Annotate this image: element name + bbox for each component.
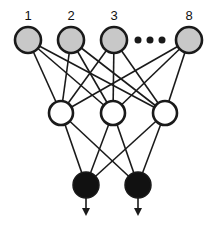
- input-node-label: 3: [110, 8, 117, 23]
- input-node-3: [101, 27, 127, 53]
- output-node-2: [125, 172, 151, 198]
- ellipsis-dot: [159, 37, 166, 44]
- input-node-label: 1: [24, 8, 31, 23]
- hidden-node-3: [153, 101, 177, 125]
- ellipsis-dot: [147, 37, 154, 44]
- output-node-1: [73, 172, 99, 198]
- input-node-8: [176, 27, 202, 53]
- input-labels: 1238: [24, 8, 192, 23]
- input-node-2: [58, 27, 84, 53]
- input-node-label: 2: [67, 8, 74, 23]
- ellipsis-dot: [135, 37, 142, 44]
- edge-input-1-hidden-3: [28, 40, 165, 113]
- input-node-1: [15, 27, 41, 53]
- hidden-node-1: [49, 101, 73, 125]
- neural-network-diagram: 1238: [0, 0, 215, 229]
- hidden-node-2: [101, 101, 125, 125]
- input-node-label: 8: [185, 8, 192, 23]
